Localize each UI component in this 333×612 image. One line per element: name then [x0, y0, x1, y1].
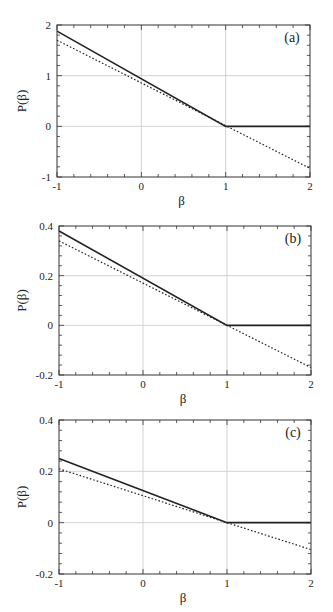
- y-axis-label: P(β): [14, 289, 29, 312]
- y-tick-label: 1: [46, 70, 52, 82]
- x-tick-label: 2: [308, 378, 314, 390]
- panel-label: (a): [284, 30, 300, 46]
- series-dotted: [59, 469, 311, 550]
- y-tick-label: 0.2: [39, 465, 53, 477]
- x-tick-label: -1: [54, 577, 63, 589]
- y-tick-label: 0.4: [39, 220, 53, 232]
- y-tick-label: 2: [46, 19, 52, 31]
- gridlines: [59, 420, 311, 574]
- y-tick-label: 0: [48, 517, 54, 529]
- x-tick-label: 2: [307, 180, 313, 192]
- x-axis-label: β: [180, 590, 187, 605]
- y-tick-label: 0: [46, 120, 52, 132]
- x-tick-label: -1: [52, 180, 61, 192]
- y-tick-label: -1: [42, 171, 51, 183]
- tick-marks: [59, 226, 311, 375]
- x-tick-label: 0: [140, 577, 146, 589]
- series-dotted: [57, 40, 310, 168]
- panel-label: (b): [285, 231, 302, 247]
- gridlines: [57, 25, 310, 177]
- tick-marks: [59, 420, 311, 574]
- chart-panel-b: -1012-0.200.20.4βP(β)(b): [14, 220, 314, 406]
- x-tick-label: 1: [224, 577, 230, 589]
- series-solid: [59, 459, 311, 523]
- gridlines: [59, 226, 311, 375]
- plot-frame: [59, 226, 311, 375]
- series-dotted: [59, 241, 311, 368]
- series-solid: [59, 231, 311, 325]
- y-tick-label: -0.2: [36, 369, 53, 381]
- series-solid: [57, 31, 310, 126]
- y-tick-label: 0.2: [39, 270, 53, 282]
- y-axis-label: P(β): [14, 486, 29, 509]
- figure-three-panels: -1012-1012βP(β)(a)-1012-0.200.20.4βP(β)(…: [0, 0, 333, 612]
- x-tick-label: 0: [139, 180, 145, 192]
- x-tick-label: -1: [54, 378, 63, 390]
- x-tick-label: 1: [224, 378, 230, 390]
- y-tick-label: -0.2: [36, 568, 53, 580]
- chart-panel-a: -1012-1012βP(β)(a): [14, 19, 313, 208]
- plot-frame: [59, 420, 311, 574]
- x-tick-label: 0: [140, 378, 146, 390]
- y-tick-label: 0.4: [39, 414, 53, 426]
- x-tick-label: 2: [308, 577, 314, 589]
- y-axis-label: P(β): [14, 90, 29, 113]
- chart-panel-c: -1012-0.200.20.4βP(β)(c): [14, 414, 314, 605]
- y-tick-label: 0: [48, 319, 54, 331]
- panel-label: (c): [285, 425, 301, 441]
- tick-marks: [57, 25, 310, 177]
- x-axis-label: β: [178, 193, 185, 208]
- plot-frame: [57, 25, 310, 177]
- x-tick-label: 1: [223, 180, 229, 192]
- x-axis-label: β: [180, 391, 187, 406]
